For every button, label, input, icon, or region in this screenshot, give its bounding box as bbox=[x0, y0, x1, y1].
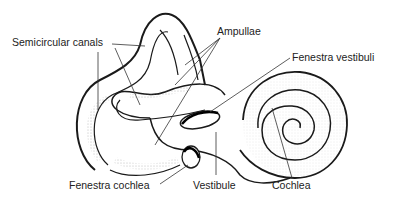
fenestra-cochlea-shape bbox=[182, 146, 200, 168]
label-cochlea: Cochlea bbox=[272, 180, 311, 191]
label-fenestra-vestibuli: Fenestra vestibuli bbox=[292, 52, 374, 63]
label-ampullae: Ampullae bbox=[217, 26, 261, 37]
label-semicircular-canals: Semicircular canals bbox=[12, 37, 103, 48]
leader-semicircular-canals-3 bbox=[115, 48, 140, 105]
cochlea-shape bbox=[240, 72, 347, 178]
inner-ear-illustration bbox=[0, 0, 405, 205]
inner-ear-diagram: Semicircular canals Ampullae Fenestra ve… bbox=[0, 0, 405, 205]
label-fenestra-cochlea: Fenestra cochlea bbox=[69, 180, 150, 191]
fenestra-vestibuli-shape bbox=[179, 108, 221, 132]
label-vestibule: Vestibule bbox=[193, 180, 236, 191]
